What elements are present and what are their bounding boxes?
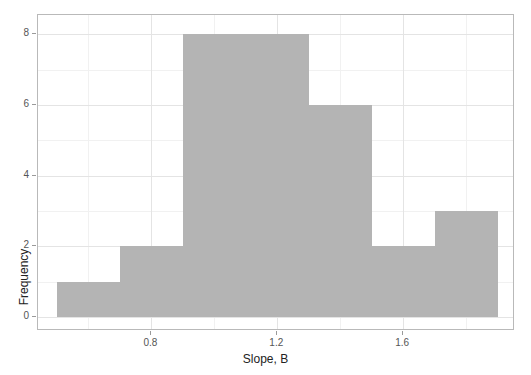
- x-axis-tick-mark: [150, 331, 151, 335]
- histogram-bar: [246, 34, 309, 316]
- histogram-bar: [435, 211, 498, 317]
- x-axis-tick-mark: [276, 331, 277, 335]
- y-axis-tick-label: 6: [7, 99, 29, 109]
- y-axis-tick-mark: [32, 316, 36, 317]
- x-axis-tick-label: 0.8: [130, 338, 170, 348]
- y-axis-title-wrap: Frequency: [10, 120, 30, 260]
- histogram-bar: [372, 246, 435, 317]
- histogram-figure: 02468 0.81.21.6 Frequency Slope, B: [0, 0, 531, 375]
- gridline-horizontal: [38, 317, 513, 318]
- y-axis-tick-mark: [32, 33, 36, 34]
- histogram-bar: [120, 246, 183, 317]
- plot-area: [38, 15, 513, 329]
- x-axis-title: Slope, B: [0, 352, 531, 366]
- y-axis-tick-mark: [32, 104, 36, 105]
- plot-panel: [37, 14, 514, 330]
- histogram-bar: [183, 34, 246, 316]
- y-axis-tick-mark: [32, 175, 36, 176]
- y-axis-title: Frequency: [17, 227, 31, 327]
- histogram-bar: [309, 105, 372, 317]
- x-axis-tick-mark: [402, 331, 403, 335]
- histogram-bar: [57, 282, 120, 317]
- y-axis-tick-mark: [32, 245, 36, 246]
- x-axis-tick-label: 1.2: [256, 338, 296, 348]
- y-axis-tick-label: 8: [7, 28, 29, 38]
- x-axis-tick-label: 1.6: [382, 338, 422, 348]
